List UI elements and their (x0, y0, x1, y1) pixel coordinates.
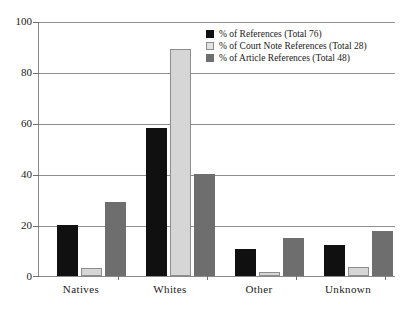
legend-swatch-icon (206, 30, 214, 38)
gridline-20 (39, 226, 395, 227)
y-tick-label: 0 (27, 271, 33, 282)
y-tick (33, 226, 39, 227)
legend-label: % of Court Note References (Total 28) (219, 40, 367, 52)
legend-label: % of References (Total 76) (219, 28, 322, 40)
bar-unknown-references (324, 245, 345, 276)
gridline-40 (39, 175, 395, 176)
y-tick (33, 276, 39, 277)
bar-other-references (235, 249, 256, 276)
x-tick-label-unknown: Unknown (313, 283, 383, 296)
y-tick-label: 60 (21, 118, 32, 129)
legend-item-court-note: % of Court Note References (Total 28) (206, 40, 398, 52)
bar-natives-article (105, 202, 126, 276)
x-tick-label-other: Other (224, 283, 294, 296)
y-tick-label: 100 (16, 16, 33, 27)
bar-unknown-article (372, 231, 393, 276)
x-tick (118, 276, 119, 280)
legend: % of References (Total 76) % of Court No… (206, 28, 398, 64)
y-tick (33, 124, 39, 125)
x-tick-label-natives: Natives (46, 283, 116, 296)
legend-swatch-icon (206, 54, 214, 62)
legend-item-article: % of Article References (Total 48) (206, 52, 398, 64)
bar-chart: 100 80 60 40 20 0 (0, 0, 406, 311)
y-tick (33, 175, 39, 176)
x-tick (207, 276, 208, 280)
legend-label: % of Article References (Total 48) (219, 52, 350, 64)
bar-natives-court-note (81, 268, 102, 276)
y-tick (33, 22, 39, 23)
x-tick-label-whites: Whites (135, 283, 205, 296)
gridline-100 (39, 22, 395, 23)
legend-item-references: % of References (Total 76) (206, 28, 398, 40)
bar-natives-references (57, 225, 78, 276)
bar-other-court-note (259, 272, 280, 276)
bar-other-article (283, 238, 304, 276)
x-tick (385, 276, 386, 280)
bar-unknown-court-note (348, 267, 369, 276)
y-tick-label: 20 (21, 220, 32, 231)
legend-swatch-icon (206, 42, 214, 50)
gridline-80 (39, 73, 395, 74)
y-tick (33, 73, 39, 74)
x-axis-labels: Natives Whites Other Unknown (38, 283, 395, 299)
y-tick-label: 80 (21, 67, 32, 78)
bar-whites-court-note (170, 49, 191, 276)
y-axis-labels: 100 80 60 40 20 0 (0, 22, 32, 277)
y-tick-label: 40 (21, 169, 32, 180)
bar-whites-article (194, 174, 215, 276)
x-tick (296, 276, 297, 280)
bar-whites-references (146, 128, 167, 276)
gridline-60 (39, 124, 395, 125)
